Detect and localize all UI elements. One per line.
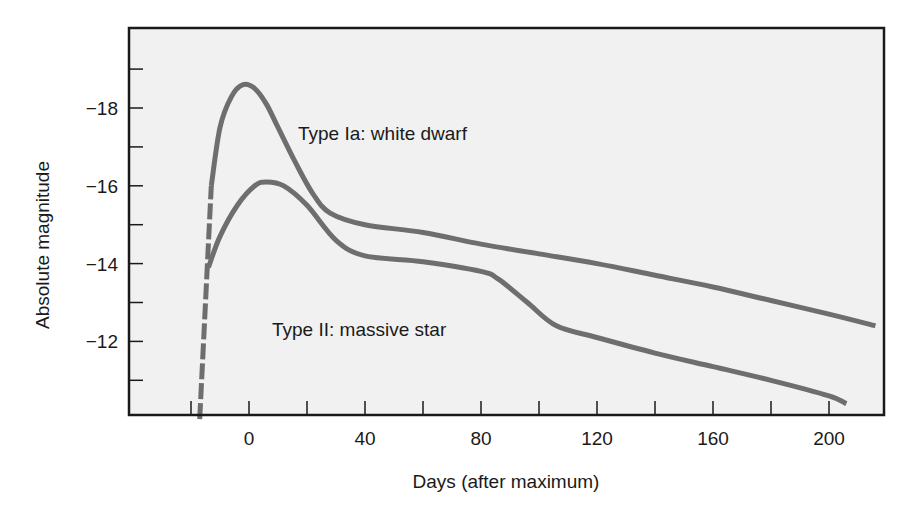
y-tick-label: −16 xyxy=(86,176,118,197)
x-tick-label: 40 xyxy=(354,428,375,449)
annotation-type-ia: Type Ia: white dwarf xyxy=(298,123,468,144)
y-tick-label: −14 xyxy=(86,254,119,275)
x-axis-title: Days (after maximum) xyxy=(413,471,600,492)
x-tick-label: 80 xyxy=(470,428,491,449)
annotation-type-ii: Type II: massive star xyxy=(272,319,447,340)
supernova-light-curve-chart: 04080120160200−18−16−14−12 Days (after m… xyxy=(0,0,910,520)
x-tick-label: 160 xyxy=(697,428,729,449)
y-tick-label: −18 xyxy=(86,98,118,119)
y-axis-title: Absolute magnitude xyxy=(32,161,53,329)
y-tick-label: −12 xyxy=(86,331,118,352)
x-tick-label: 0 xyxy=(244,428,255,449)
x-tick-label: 200 xyxy=(813,428,845,449)
x-tick-label: 120 xyxy=(581,428,613,449)
